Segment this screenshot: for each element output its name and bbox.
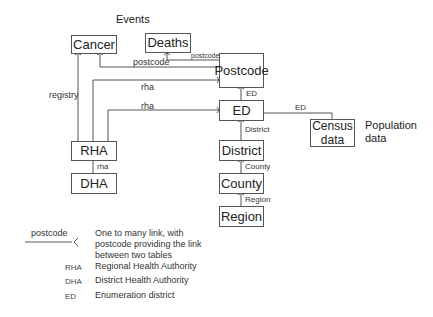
link-label-district-county: County (245, 162, 270, 171)
link-label-registry: registry (49, 90, 79, 100)
link-label-rha-postcode: rha (141, 82, 154, 92)
link-label-postcode-ed: ED (246, 89, 257, 98)
link-label-rha-dha: rha (97, 162, 109, 171)
entity-district[interactable]: District (219, 140, 264, 161)
legend-abbr-dha: DHA (65, 277, 82, 286)
entity-ed[interactable]: ED (219, 100, 264, 121)
entity-county[interactable]: County (219, 173, 264, 194)
link-label-cancer-postcode: postcode (133, 57, 170, 67)
link-label-ed-census: ED (295, 103, 306, 112)
link-label-ed-district: District (245, 125, 269, 134)
link-label-deaths-postcode: postcode (191, 52, 219, 59)
entity-rha[interactable]: RHA (71, 141, 117, 161)
events-title: Events (116, 13, 150, 25)
entity-deaths[interactable]: Deaths (145, 33, 191, 53)
legend-abbr-rha: RHA (65, 263, 82, 272)
entity-dha[interactable]: DHA (71, 173, 117, 194)
legend-abbr-ed: ED (65, 292, 76, 301)
entity-postcode[interactable]: Postcode (219, 53, 264, 88)
entity-cancer[interactable]: Cancer (71, 35, 117, 54)
entity-region[interactable]: Region (219, 206, 264, 227)
legend-meaning-rha: Regional Health Authority (95, 261, 197, 272)
legend-meaning-ed: Enumeration district (95, 290, 175, 301)
entity-census-data[interactable]: Census data (310, 119, 355, 147)
legend-link-description: One to many link, with postcode providin… (95, 228, 210, 261)
population-data-title: Population data (365, 119, 415, 145)
link-label-county-region: Region (245, 195, 270, 204)
link-label-rha-ed: rha (141, 101, 154, 111)
legend-link-label: postcode (31, 228, 68, 238)
legend-meaning-dha: District Health Authority (95, 275, 189, 286)
